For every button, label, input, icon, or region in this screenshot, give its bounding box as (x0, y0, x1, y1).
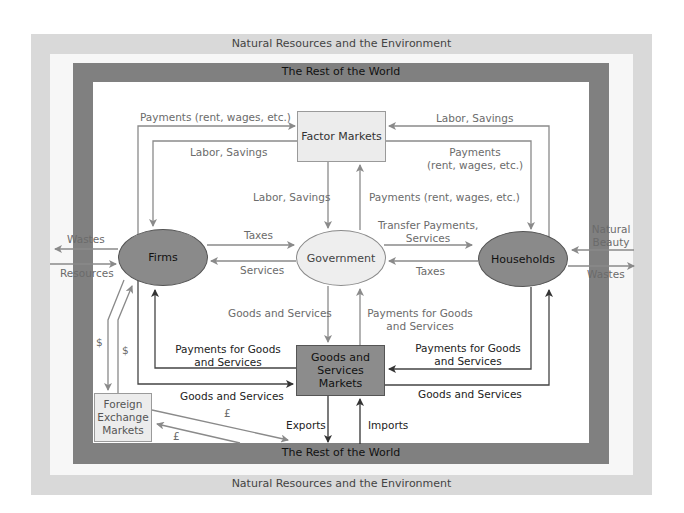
label-taxes-households: Taxes (416, 265, 445, 278)
factor-markets-label: Factor Markets (301, 130, 382, 143)
arrow-dollar-to-firms (118, 286, 132, 393)
government-label: Government (307, 252, 376, 265)
arrow-dollar-to-fx (108, 280, 124, 390)
government-node: Government (296, 230, 386, 286)
label-labor-to-firms: Labor, Savings (190, 146, 267, 159)
goods-markets-label-line2: Services (317, 364, 363, 377)
fx-label-line1: Foreign (104, 398, 143, 411)
label-transfer-line1: Transfer Payments, (378, 219, 478, 232)
label-payments-households-line2: (rent, wages, etc.) (427, 159, 523, 172)
households-label: Households (491, 253, 555, 266)
goods-services-markets-node: Goods and Services Markets (296, 345, 385, 396)
label-wastes-right: Wastes (587, 268, 625, 281)
goods-markets-label-line3: Markets (319, 377, 363, 390)
goods-markets-label-line1: Goods and (311, 351, 370, 364)
label-dollar-1: $ (96, 336, 103, 349)
label-gov-goods: Goods and Services (228, 307, 332, 320)
label-labor-to-government: Labor, Savings (253, 191, 330, 204)
label-taxes-firms: Taxes (244, 229, 273, 242)
circular-flow-diagram: Natural Resources and the Environment Na… (0, 0, 684, 513)
factor-markets-node: Factor Markets (297, 111, 386, 162)
label-hh-payments-line2: and Services (410, 355, 526, 368)
label-services-firms: Services (240, 264, 284, 277)
label-hh-goods: Goods and Services (418, 388, 522, 401)
label-gov-payments-line2: and Services (362, 320, 478, 333)
label-hh-payments-line1: Payments for Goods (410, 342, 526, 355)
label-payments-households-line1: Payments (427, 146, 523, 159)
foreign-exchange-markets-node: Foreign Exchange Markets (94, 393, 152, 442)
firms-node: Firms (118, 229, 208, 286)
label-resources: Resources (60, 267, 114, 280)
label-payments-from-government: Payments (rent, wages, etc.) (369, 191, 520, 204)
label-firms-payments-line1: Payments for Goods (170, 343, 286, 356)
label-firms-payments-line2: and Services (170, 356, 286, 369)
label-labor-from-households: Labor, Savings (436, 112, 513, 125)
households-node: Households (478, 231, 568, 287)
firms-label: Firms (148, 251, 177, 264)
label-natural-beauty-line1: Natural (586, 223, 636, 236)
label-gov-payments-line1: Payments for Goods (362, 307, 478, 320)
arrow-goods-to-households (385, 290, 549, 385)
label-natural-beauty-line2: Beauty (586, 236, 636, 249)
label-pound-2: £ (173, 430, 180, 443)
label-pound-1: £ (224, 407, 231, 420)
label-transfer-line2: Services (378, 232, 478, 245)
fx-label-line2: Exchange (97, 411, 148, 424)
label-exports: Exports (286, 419, 326, 432)
label-dollar-2: $ (122, 344, 129, 357)
label-imports: Imports (368, 419, 408, 432)
label-payments-to-factor: Payments (rent, wages, etc.) (140, 111, 291, 124)
fx-label-line3: Markets (102, 424, 144, 437)
label-wastes-left: Wastes (67, 233, 105, 246)
label-firms-goods: Goods and Services (180, 390, 284, 403)
